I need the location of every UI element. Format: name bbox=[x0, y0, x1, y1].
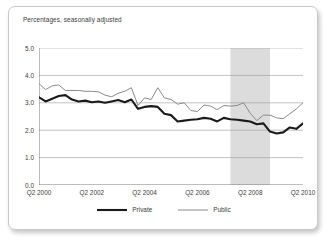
shaded-region-layer bbox=[230, 48, 270, 185]
legend-label: Private bbox=[132, 206, 152, 213]
x-tick-label: Q2 2002 bbox=[70, 189, 114, 196]
y-tick-label: 5.0 bbox=[14, 45, 34, 52]
legend-swatch bbox=[97, 207, 127, 213]
y-tick-label: 3.0 bbox=[14, 99, 34, 106]
legend-item-public[interactable]: Public bbox=[178, 206, 230, 213]
x-tick-label: Q2 2006 bbox=[175, 189, 219, 196]
chart-svg bbox=[39, 48, 303, 185]
y-tick-label: 0.0 bbox=[14, 182, 34, 189]
recession-band bbox=[230, 48, 270, 185]
y-tick-label: 2.0 bbox=[14, 127, 34, 134]
chart-card: Percentages, seasonally adjusted 0.01.02… bbox=[8, 6, 318, 230]
legend-label: Public bbox=[213, 206, 230, 213]
plot-area bbox=[39, 48, 303, 185]
x-tick-label: Q2 2008 bbox=[228, 189, 272, 196]
x-tick-label: Q2 2004 bbox=[123, 189, 167, 196]
x-tick-label: Q2 2000 bbox=[17, 189, 61, 196]
y-tick-label: 4.0 bbox=[14, 72, 34, 79]
y-tick-label: 1.0 bbox=[14, 154, 34, 161]
legend-swatch bbox=[178, 207, 208, 213]
legend-item-private[interactable]: Private bbox=[97, 206, 152, 213]
chart-legend: PrivatePublic bbox=[9, 206, 319, 213]
x-tick-label: Q2 2010 bbox=[281, 189, 325, 196]
chart-subtitle: Percentages, seasonally adjusted bbox=[23, 16, 122, 23]
